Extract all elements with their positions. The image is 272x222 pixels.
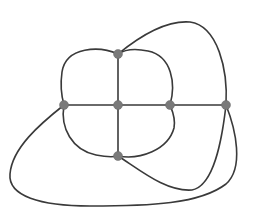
edges-group [10,22,237,206]
node-right-outer [222,101,231,110]
node-bottom [114,152,123,161]
edge-left-bottom-arc [63,105,118,157]
node-center [114,101,123,110]
node-right-inner [166,101,175,110]
node-left [60,101,69,110]
edge-bottom-right-inner-arc [118,105,175,157]
edge-left-right-outer-loop [10,105,237,206]
node-top [114,50,123,59]
graph-diagram [0,0,272,222]
edge-top-left-arc [61,49,118,105]
edge-bottom-right-outer-arc [118,105,226,190]
edge-right-inner-top-arc [118,50,172,105]
